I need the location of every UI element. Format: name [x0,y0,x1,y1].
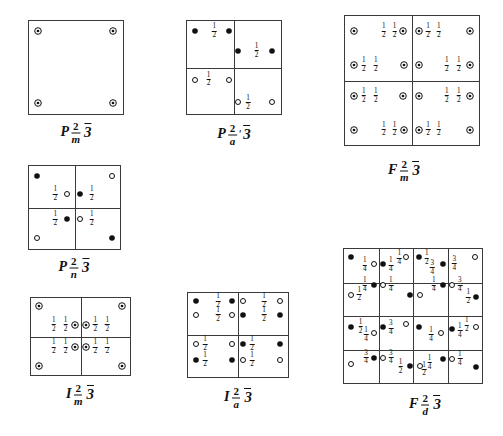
lattice-letter: P [58,259,67,275]
open-circle-icon [277,357,284,364]
filled-dot-icon [277,311,284,318]
figure-p2m3 [28,20,124,115]
height-fraction-label: 12 [445,88,450,104]
height-fraction-label: 12 [254,43,259,59]
fraction-denominator: 2 [51,348,56,356]
grid-line-vertical [379,249,380,383]
symmetry-denominator: a [230,135,236,147]
height-fraction-label: 14 [429,327,434,343]
height-fraction-label: 14 [362,277,367,293]
open-circle-icon [34,235,41,242]
lattice-letter: F [388,162,397,178]
fraction-denominator: 4 [364,335,369,343]
circle-with-dot-icon [414,27,423,36]
filled-dot-icon [234,47,241,54]
open-circle-icon [403,321,410,328]
filled-dot-icon [347,254,354,261]
height-fraction-label: 14 [431,277,436,293]
fraction-denominator: 4 [389,266,394,274]
inversion-axis-symbol: 3 [244,388,252,406]
height-fraction-label: 12 [89,211,94,227]
filled-dot-icon [440,355,447,362]
filled-dot-icon [240,311,247,318]
height-fraction-label: 12 [51,317,56,333]
fraction-denominator: 2 [422,370,427,378]
fraction-denominator: 2 [262,315,267,323]
height-fraction-label: 12 [426,23,431,39]
filled-dot-icon [415,254,422,261]
open-circle-icon [416,291,423,298]
height-fraction-label: 14 [458,323,463,339]
height-fraction-label: 12 [374,57,379,73]
open-circle-icon [277,298,284,305]
open-circle-icon [448,355,455,362]
circle-with-dot-icon [465,61,474,70]
fraction-denominator: 4 [458,359,463,367]
filled-dot-icon [34,172,41,179]
prime-mark: ' [238,127,241,142]
height-fraction-label: 12 [466,289,471,305]
fraction-denominator: 2 [105,348,110,356]
fraction-denominator: 2 [203,361,208,369]
height-fraction-label: 34 [430,260,435,276]
circle-with-dot-icon [82,320,91,329]
height-fraction-label: 12 [457,57,462,73]
grid-line-vertical [448,249,449,383]
fraction-denominator: 2 [357,295,362,303]
open-circle-icon [403,254,410,261]
fraction-denominator: 4 [458,286,463,294]
fraction-denominator: 2 [105,325,110,333]
fraction-denominator: 2 [206,80,211,88]
height-fraction-label: 14 [389,277,394,293]
figure-f2d3: 1414141234341414121434121214341414123434… [343,248,483,384]
height-fraction-label: 12 [357,287,362,303]
filled-dot-icon [407,362,414,369]
circle-with-dot-icon [399,61,408,70]
space-group-caption-f2d3: F2d3 [409,392,441,416]
height-fraction-label: 12 [398,359,403,375]
circle-with-dot-icon [108,27,117,36]
height-fraction-label: 14 [458,351,463,367]
filled-dot-icon [277,341,284,348]
filled-dot-icon [108,235,115,242]
fraction-denominator: 4 [397,259,402,267]
open-circle-icon [268,98,275,105]
figure-i2a3: 1212121212121212 [187,292,289,378]
height-fraction-label: 12 [392,23,397,39]
open-circle-icon [193,311,200,318]
height-fraction-label: 14 [389,257,394,273]
height-fraction-label: 14 [362,257,367,273]
fraction-denominator: 2 [374,96,379,104]
height-fraction-label: 12 [374,88,379,104]
fraction-denominator: 2 [374,66,379,74]
circle-with-dot-icon [350,91,359,100]
height-fraction-label: 12 [250,336,255,352]
fraction-denominator: 2 [466,298,471,306]
height-fraction-label: 34 [389,350,394,366]
circle-with-dot-icon [82,343,91,352]
fraction-denominator: 2 [457,66,462,74]
symmetry-denominator: m [72,133,81,145]
circle-with-dot-icon [350,27,359,36]
symmetry-numerator: 2 [228,123,237,136]
fraction-denominator: 4 [362,286,367,294]
circle-with-dot-icon [70,343,79,352]
height-fraction-label: 12 [361,88,366,104]
height-fraction-label: 14 [397,250,402,266]
filled-dot-icon [240,341,247,348]
symmetry-denominator: m [400,171,409,183]
figure-p2n3: 12121212 [28,165,121,250]
height-fraction-label: 12 [392,122,397,138]
height-fraction-label: 34 [458,277,463,293]
filled-dot-icon [64,216,71,223]
fraction-denominator: 2 [445,66,450,74]
open-circle-icon [240,298,247,305]
filled-dot-icon [473,363,480,370]
open-circle-icon [226,76,233,83]
open-circle-icon [371,260,378,267]
height-fraction-label: 12 [53,186,58,202]
fraction-denominator: 2 [361,96,366,104]
circle-with-dot-icon [398,91,407,100]
open-circle-icon [379,282,386,289]
symmetry-numerator: 2 [421,393,430,406]
